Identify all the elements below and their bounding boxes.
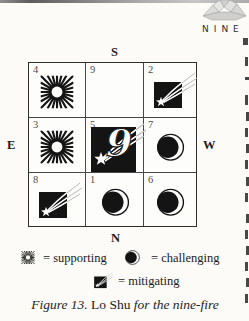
page-edge-text-fragment [245,95,248,105]
page-edge-text-fragment [245,77,249,80]
grid-cell-6: 6 [144,173,196,226]
cell-number-label: 6 [148,174,153,185]
grid-cell-2: 2 [144,63,196,118]
grid-cell-4: 4 [29,63,86,118]
page-edge-text-fragment [245,262,248,271]
compass-north-label: N [111,231,120,246]
legend-label-supporting: = supporting [43,251,107,266]
figure-caption: Figure 13. Lo Shu for the nine-fire [12,297,238,313]
starburst-icon [21,251,35,264]
moon-icon [157,133,185,161]
loshu-grid: 4 9 2 3 5 [28,62,197,227]
compass-west-label: W [203,138,216,153]
grid-cell-8: 8 [29,173,86,226]
moon-icon [157,188,185,216]
star-icon [91,122,147,172]
starburst-icon [41,75,74,108]
grid-cell-5: 5 9 [86,118,144,173]
cell-number-label: 4 [33,64,38,75]
page-edge-text-fragment [245,193,248,202]
page-edge-text-fragment [245,128,248,137]
page-edge-text-fragment [246,144,249,153]
cell-number-label: 9 [90,64,95,75]
starburst-icon [41,130,74,163]
cell-number-label: 8 [33,174,38,185]
cell-number-label: 1 [90,174,95,185]
figure-label: Figure 13. [31,297,88,312]
shooting-star-icon [39,182,83,220]
gem-ornament-icon [200,0,249,22]
moon-icon [101,188,129,216]
page-edge-text-fragment [246,177,249,186]
moon-icon [125,250,140,265]
page-edge-text-fragment [246,278,249,287]
page-edge-text-fragment [246,246,249,255]
page-edge-text-fragment [243,38,248,45]
chapter-header-label: NINE [202,24,249,34]
legend-label-challenging: = challenging [151,251,220,266]
page-edge-text-fragment [246,112,249,121]
compass-south-label: S [111,45,118,60]
cell-number-label: 2 [148,64,153,75]
grid-cell-3: 3 [29,118,86,173]
nine-fire-icon: 9 [91,122,147,172]
grid-cell-9: 9 [86,63,144,118]
cell-number-label: 3 [33,119,38,130]
page-edge-text-fragment [245,57,248,66]
page-edge-text-fragment [245,230,248,239]
grid-cell-7: 7 [144,118,196,173]
grid-cell-1: 1 [86,173,144,226]
legend-label-mitigating: = mitigating [118,274,180,289]
page-edge-text-fragment [246,214,249,223]
figure-subtitle: for the nine-fire [134,297,219,312]
compass-east-label: E [7,138,15,153]
shooting-star-icon [94,272,114,289]
page-edge-text-fragment [245,160,248,169]
figure-title: Lo Shu [88,297,134,312]
shooting-star-icon [154,72,198,110]
cell-number-label: 7 [148,119,153,130]
page-edge-text-fragment [245,294,248,303]
